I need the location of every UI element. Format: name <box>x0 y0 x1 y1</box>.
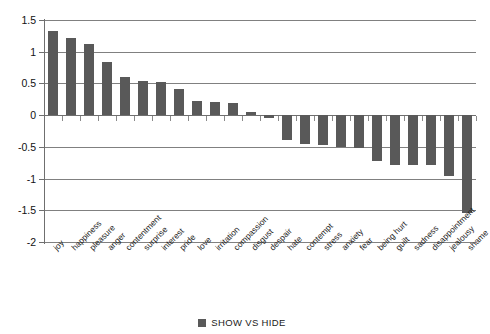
x-axis-tick <box>476 116 477 121</box>
bar <box>174 89 184 116</box>
y-axis-tick-label: 1.5 <box>0 15 36 25</box>
bar <box>408 115 418 165</box>
chart-legend: SHOW VS HIDE <box>0 313 484 331</box>
x-axis-tick <box>116 116 117 121</box>
grid-line <box>44 20 476 21</box>
bar <box>156 82 166 115</box>
x-axis-tick <box>62 116 63 121</box>
legend-label: SHOW VS HIDE <box>211 317 285 328</box>
bar <box>282 115 292 140</box>
x-axis-tick <box>404 116 405 121</box>
x-axis-tick <box>350 116 351 121</box>
bar <box>390 115 400 164</box>
y-axis-tick-label: 0.5 <box>0 78 36 88</box>
y-axis-tick-label: 1 <box>0 47 36 57</box>
bar <box>462 115 472 213</box>
bar <box>246 112 256 115</box>
y-axis-line <box>44 19 45 244</box>
x-axis-tick <box>260 116 261 121</box>
legend-swatch-icon <box>198 319 206 327</box>
bar <box>354 115 364 148</box>
bar <box>264 115 274 118</box>
bar <box>318 115 328 145</box>
grid-line <box>44 179 476 180</box>
bar <box>336 115 346 147</box>
x-axis-tick <box>278 116 279 121</box>
x-axis-tick <box>296 116 297 121</box>
x-axis-tick <box>152 116 153 121</box>
x-axis-tick <box>386 116 387 121</box>
bar <box>84 44 94 115</box>
x-axis-tick <box>332 116 333 121</box>
x-axis-tick <box>188 116 189 121</box>
bar <box>102 62 112 115</box>
bar <box>210 102 220 115</box>
x-axis-tick <box>440 116 441 121</box>
bar <box>192 101 202 116</box>
grid-line <box>44 210 476 211</box>
y-axis-tick-label: -1.5 <box>0 205 36 215</box>
x-axis-tick <box>242 116 243 121</box>
y-axis-tick-label: -1 <box>0 174 36 184</box>
x-axis-tick <box>98 116 99 121</box>
plot-area <box>44 20 476 242</box>
x-axis-tick <box>134 116 135 121</box>
bar <box>228 103 238 115</box>
bar <box>48 31 58 115</box>
bar <box>444 115 454 176</box>
x-axis-tick <box>80 116 81 121</box>
y-axis-tick-label: 0 <box>0 110 36 120</box>
grid-line <box>44 52 476 53</box>
x-axis-tick <box>170 116 171 121</box>
bar <box>372 115 382 161</box>
x-axis-tick <box>458 116 459 121</box>
x-axis-tick <box>224 116 225 121</box>
bar <box>300 115 310 144</box>
bar <box>426 115 436 165</box>
bar <box>120 77 130 115</box>
bar <box>66 38 76 115</box>
x-axis-tick <box>206 116 207 121</box>
x-axis-tick <box>422 116 423 121</box>
y-axis-tick-label: -0.5 <box>0 142 36 152</box>
bar <box>138 81 148 115</box>
x-axis-tick <box>314 116 315 121</box>
x-axis-labels: joyhappinesspleasureangercontentmentsurp… <box>44 246 476 312</box>
y-axis-tick-label: -2 <box>0 237 36 247</box>
x-axis-tick <box>368 116 369 121</box>
